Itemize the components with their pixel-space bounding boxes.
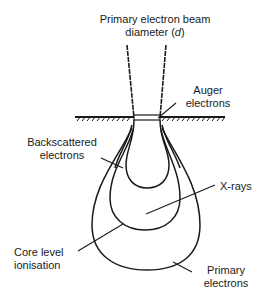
label-core-level-ionisation: Core level ionisation — [14, 246, 64, 272]
beam-title: Primary electron beam diameter (d) — [95, 13, 215, 39]
title-suffix: ) — [181, 26, 185, 38]
label-primary-electrons: Primary electrons — [200, 264, 252, 290]
core-line2: ionisation — [14, 259, 64, 272]
title-prefix: diameter ( — [125, 26, 175, 38]
beam-title-line1: Primary electron beam — [95, 13, 215, 26]
label-auger-electrons: Auger electrons — [178, 84, 238, 110]
primary-line2: electrons — [200, 277, 252, 290]
interaction-volume-diagram: Primary electron beam diameter (d) Auger… — [0, 0, 264, 299]
sample-surface — [75, 115, 225, 121]
label-backscattered-electrons: Backscattered electrons — [20, 136, 104, 162]
auger-line2: electrons — [178, 97, 238, 110]
backscattered-line1: Backscattered — [20, 136, 104, 149]
interaction-volume — [92, 120, 200, 270]
core-line1: Core level — [14, 246, 64, 259]
backscattered-line2: electrons — [20, 149, 104, 162]
auger-line1: Auger — [178, 84, 238, 97]
primary-line1: Primary — [200, 264, 252, 277]
label-x-rays: X-rays — [220, 180, 252, 193]
primary-beam — [127, 45, 166, 118]
beam-title-line2: diameter (d) — [95, 26, 215, 39]
